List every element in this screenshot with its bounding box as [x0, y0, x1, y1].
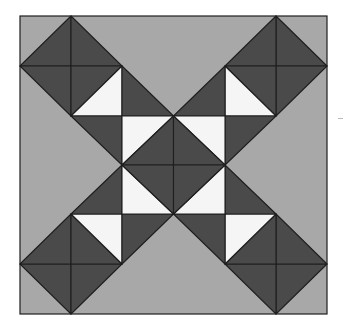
quilt-block — [0, 0, 351, 336]
stray-mark — [338, 118, 343, 119]
